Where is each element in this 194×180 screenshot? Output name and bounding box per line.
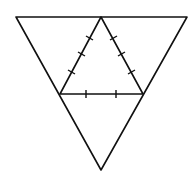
- tick-marks: [68, 36, 135, 98]
- inner-triangle: [60, 17, 143, 94]
- triangle-diagram: [0, 0, 194, 180]
